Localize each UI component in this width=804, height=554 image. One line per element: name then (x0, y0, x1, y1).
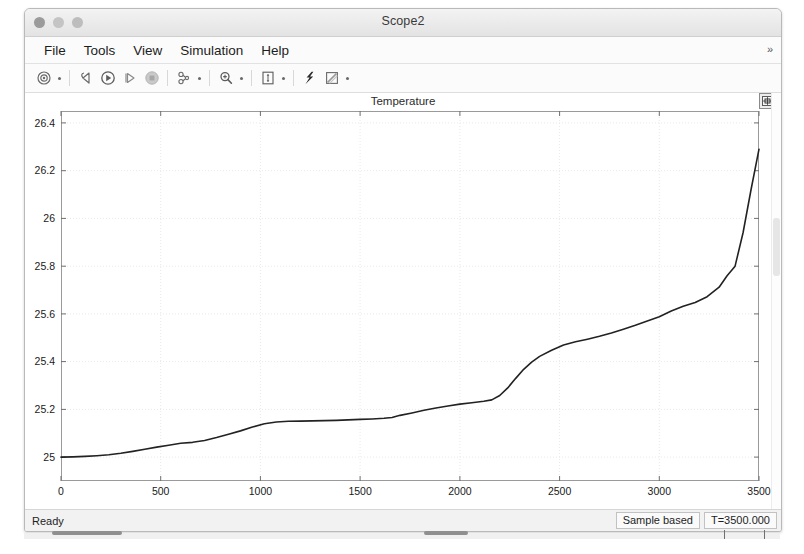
toolbar-separator (209, 70, 210, 86)
configuration-properties-caret-icon[interactable] (55, 68, 64, 88)
status-bar: Ready Sample based T=3500.000 (25, 509, 781, 531)
status-sample-mode: Sample based (616, 512, 700, 529)
host-horizontal-scrollbar[interactable] (24, 530, 780, 542)
toolbar-separator (167, 70, 168, 86)
menu-tools[interactable]: Tools (75, 41, 125, 60)
y-axis-tick-label: 26.4 (35, 117, 56, 129)
y-axis-tick-label: 26 (43, 212, 55, 224)
y-axis-tick-label: 25.8 (35, 260, 56, 272)
y-axis-tick-label: 26.2 (35, 164, 56, 176)
scope-window-screenshot: Scope2 File Tools View Simulation Help » (0, 0, 804, 554)
window-title: Scope2 (25, 14, 781, 28)
configuration-properties-icon[interactable] (33, 68, 54, 89)
host-scrollbar-track[interactable] (24, 533, 780, 539)
plot-pane: Temperature 2525.225.425.625.82626.226.4… (25, 93, 781, 509)
tool-bar (25, 64, 781, 93)
signal-selection-caret-icon[interactable] (195, 68, 204, 88)
menu-bar: File Tools View Simulation Help » (25, 37, 781, 64)
x-axis-tick-label: 3000 (648, 485, 672, 497)
signal-selection-icon[interactable] (173, 68, 194, 89)
autoscale-caret-icon[interactable] (279, 68, 288, 88)
x-axis-tick-label: 2000 (448, 485, 472, 497)
plot-scrollbar-thumb[interactable] (773, 218, 780, 276)
menu-file[interactable]: File (35, 41, 75, 60)
y-axis-tick-label: 25.6 (35, 308, 56, 320)
stop-icon[interactable] (141, 68, 162, 89)
measurements-icon[interactable] (299, 68, 320, 89)
menu-view[interactable]: View (124, 41, 171, 60)
host-scrollbar-thumb (52, 531, 122, 535)
x-axis-tick-label: 3500 (747, 485, 771, 497)
title-bar: Scope2 (25, 9, 781, 37)
scope-window: Scope2 File Tools View Simulation Help » (24, 8, 782, 532)
x-axis-tick-label: 0 (58, 485, 64, 497)
autoscale-icon[interactable] (257, 68, 278, 89)
step-forward-icon[interactable] (119, 68, 140, 89)
plot-vertical-scrollbar[interactable] (771, 93, 781, 509)
rewind-icon[interactable] (75, 68, 96, 89)
zoom-in-caret-icon[interactable] (237, 68, 246, 88)
status-time-value: T=3500.000 (704, 512, 777, 529)
x-axis-tick-label: 2500 (548, 485, 572, 497)
host-scrollbar-thumb-2 (424, 531, 468, 535)
toolbar-separator (69, 70, 70, 86)
x-axis-tick-label: 500 (152, 485, 170, 497)
menu-simulation[interactable]: Simulation (171, 41, 252, 60)
run-icon[interactable] (97, 68, 118, 89)
status-ready-label: Ready (25, 515, 616, 527)
y-axis-tick-label: 25 (43, 451, 55, 463)
x-axis-tick-label: 1500 (348, 485, 372, 497)
toolbar-separator (251, 70, 252, 86)
toolbar-separator (293, 70, 294, 86)
zoom-in-icon[interactable] (215, 68, 236, 89)
menu-help[interactable]: Help (252, 41, 298, 60)
y-axis-tick-label: 25.4 (35, 355, 56, 367)
chart-canvas: 2525.225.425.625.82626.226.4050010001500… (25, 93, 781, 509)
host-scrollbar-tick-2 (764, 530, 765, 539)
x-axis-tick-label: 1000 (249, 485, 273, 497)
host-scrollbar-tick (724, 530, 725, 539)
series-line-temperature (61, 149, 759, 457)
y-axis-tick-label: 25.2 (35, 403, 56, 415)
menu-overflow-icon[interactable]: » (767, 43, 773, 55)
style-icon[interactable] (321, 68, 342, 89)
style-caret-icon[interactable] (343, 68, 352, 88)
